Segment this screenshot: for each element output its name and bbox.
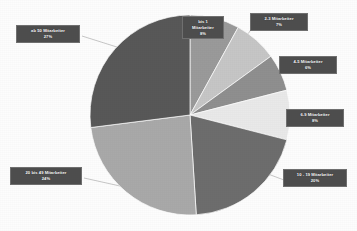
callout-6-9-percent: 8% (290, 118, 340, 124)
callout-10-19[interactable]: 10 - 19 Mitarbeiter 20% (283, 169, 347, 187)
callout-4-5-label: 4-5 Mitarbeiter (293, 59, 322, 64)
callout-4-5[interactable]: 4-5 Mitarbeiter 6% (279, 56, 337, 74)
slice-20-49[interactable] (91, 115, 196, 215)
callout-20-49-percent: 24% (14, 176, 78, 182)
callout-ab-50-label: ab 50 Mitarbeiter (31, 28, 65, 33)
callout-2-3-percent: 7% (254, 22, 304, 28)
callout-6-9-label: 6-9 Mitarbeiter (300, 112, 329, 117)
callout-2-3-label: 2-3 Mitarbeiter (264, 16, 293, 21)
callout-ab-50-percent: 27% (20, 34, 76, 40)
callout-20-49-label: 20 bis 49 Mitarbeiter (25, 170, 66, 175)
callout-bis-1[interactable]: bis 1 Mitarbeiter 8% (182, 16, 224, 39)
callout-2-3[interactable]: 2-3 Mitarbeiter 7% (250, 13, 308, 31)
callout-bis-1-label: bis 1 (198, 19, 208, 24)
leader-line-6 (82, 36, 120, 48)
chart-canvas: bis 1 Mitarbeiter 8% 2-3 Mitarbeiter 7% … (0, 0, 357, 231)
callout-20-49[interactable]: 20 bis 49 Mitarbeiter 24% (10, 167, 82, 185)
pie-slices (90, 15, 290, 215)
callout-ab-50[interactable]: ab 50 Mitarbeiter 27% (16, 25, 80, 43)
slice-ab-50[interactable] (90, 15, 190, 128)
callout-6-9[interactable]: 6-9 Mitarbeiter 8% (286, 109, 344, 127)
callout-4-5-percent: 6% (283, 65, 333, 71)
callout-10-19-percent: 20% (287, 178, 343, 184)
callout-10-19-label: 10 - 19 Mitarbeiter (297, 172, 333, 177)
callout-bis-1-percent: 8% (186, 31, 220, 37)
